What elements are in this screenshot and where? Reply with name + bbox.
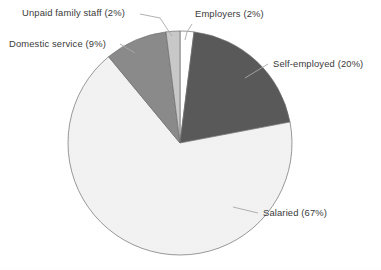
pie-chart: Unpaid family staff (2%) Employers (2%) … xyxy=(0,0,381,270)
pie-label-self-employed: Self-employed (20%) xyxy=(273,58,363,69)
pie-label-employers: Employers (2%) xyxy=(195,8,264,19)
pie-label-salaried: Salaried (67%) xyxy=(263,207,327,218)
pie-label-domestic-service: Domestic service (9%) xyxy=(9,38,106,49)
pie-label-unpaid-family-staff: Unpaid family staff (2%) xyxy=(22,7,125,18)
pie-chart-canvas: Unpaid family staff (2%) Employers (2%) … xyxy=(0,0,381,270)
pie-wedge-group xyxy=(68,31,292,255)
